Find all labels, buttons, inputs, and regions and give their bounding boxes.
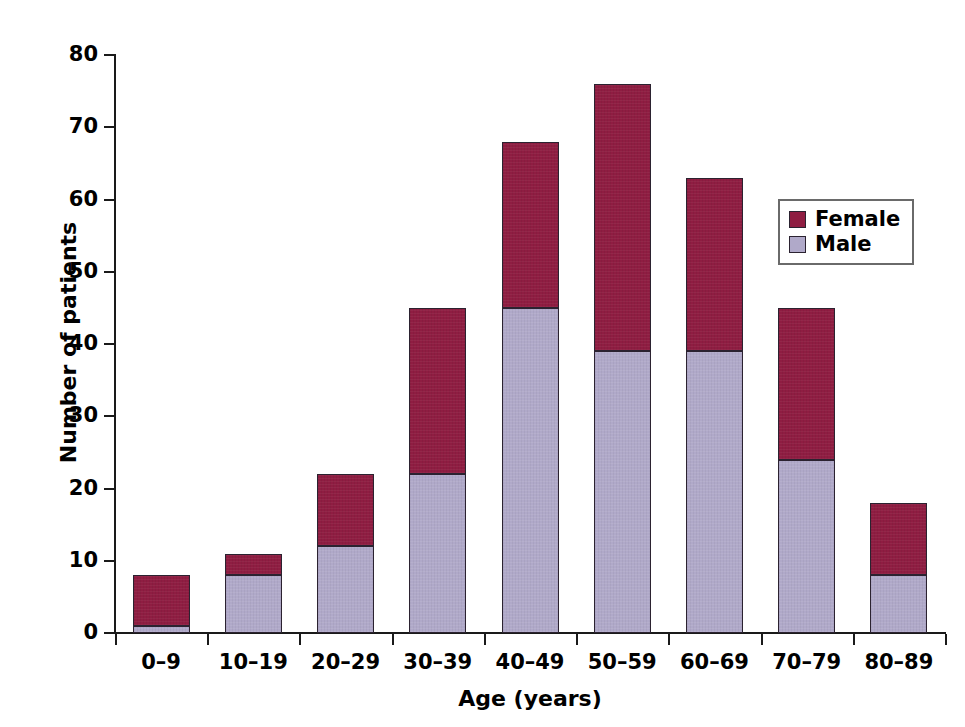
bar-segment-male <box>502 308 559 633</box>
y-tick-label-0: 0 <box>0 622 98 643</box>
bar-10–19 <box>225 554 282 633</box>
bar-segment-male <box>225 575 282 633</box>
y-axis-line <box>114 54 116 634</box>
x-tick-6 <box>668 634 670 645</box>
y-tick-30 <box>104 415 114 417</box>
y-tick-label-30: 30 <box>0 405 98 426</box>
x-tick-7 <box>761 634 763 645</box>
y-tick-80 <box>104 54 114 56</box>
bar-chart: Number of patients 01020304050607080 0–9… <box>0 0 965 727</box>
legend: Female Male <box>778 199 914 265</box>
x-tick-8 <box>853 634 855 645</box>
legend-label-female: Female <box>815 209 900 230</box>
bar-segment-female <box>225 554 282 576</box>
x-tick-end <box>945 634 947 645</box>
y-tick-70 <box>104 126 114 128</box>
bar-40–49 <box>502 142 559 633</box>
y-tick-40 <box>104 343 114 345</box>
legend-item-female: Female <box>789 207 900 232</box>
bar-50–59 <box>594 84 651 633</box>
bar-segment-female <box>870 503 927 575</box>
bar-segment-male <box>133 626 190 633</box>
bar-segment-male <box>686 351 743 633</box>
x-tick-0 <box>115 634 117 645</box>
bar-segment-male <box>594 351 651 633</box>
y-tick-label-60: 60 <box>0 189 98 210</box>
x-tick-5 <box>576 634 578 645</box>
x-tick-3 <box>392 634 394 645</box>
bar-0–9 <box>133 575 190 633</box>
legend-item-male: Male <box>789 232 900 257</box>
bar-30–39 <box>409 308 466 633</box>
x-axis-title: Age (years) <box>115 686 945 711</box>
y-tick-50 <box>104 271 114 273</box>
y-tick-60 <box>104 199 114 201</box>
y-tick-label-10: 10 <box>0 550 98 571</box>
y-tick-20 <box>104 488 114 490</box>
y-tick-label-50: 50 <box>0 261 98 282</box>
x-tick-4 <box>484 634 486 645</box>
bar-segment-female <box>594 84 651 351</box>
bar-20–29 <box>317 474 374 633</box>
bar-segment-male <box>317 546 374 633</box>
bar-segment-female <box>778 308 835 460</box>
bar-segment-male <box>409 474 466 633</box>
bar-segment-male <box>870 575 927 633</box>
y-tick-label-80: 80 <box>0 44 98 65</box>
bar-segment-male <box>778 460 835 633</box>
y-tick-label-40: 40 <box>0 333 98 354</box>
bar-60–69 <box>686 178 743 633</box>
bar-segment-female <box>133 575 190 626</box>
y-tick-label-20: 20 <box>0 478 98 499</box>
x-tick-2 <box>299 634 301 645</box>
legend-swatch-male-icon <box>789 236 806 253</box>
bar-segment-female <box>686 178 743 351</box>
bar-segment-female <box>317 474 374 546</box>
bar-80–89 <box>870 503 927 633</box>
bar-70–79 <box>778 308 835 633</box>
bar-segment-female <box>409 308 466 474</box>
x-tick-label-80–89: 80–89 <box>839 650 959 674</box>
legend-label-male: Male <box>815 234 872 255</box>
y-tick-0 <box>104 632 114 634</box>
bar-segment-female <box>502 142 559 308</box>
y-tick-label-70: 70 <box>0 116 98 137</box>
y-tick-10 <box>104 560 114 562</box>
legend-swatch-female-icon <box>789 211 806 228</box>
x-tick-1 <box>207 634 209 645</box>
